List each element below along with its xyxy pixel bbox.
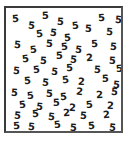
glyph-5[interactable]: 5 [12,14,20,24]
glyph-5[interactable]: 5 [28,122,36,133]
glyph-5[interactable]: 5 [53,120,61,131]
glyph-5[interactable]: 5 [115,64,123,75]
glyph-5[interactable]: 5 [40,56,48,66]
glyph-5[interactable]: 5 [24,76,32,86]
glyph-2[interactable]: 2 [86,53,94,63]
glyph-5[interactable]: 5 [115,15,123,26]
glyph-5[interactable]: 5 [71,21,79,32]
glyph-5[interactable]: 5 [66,63,73,73]
glyph-5[interactable]: 5 [13,66,21,77]
glyph-5[interactable]: 5 [102,74,109,84]
glyph-5[interactable]: 5 [41,78,49,89]
glyph-5[interactable]: 5 [14,40,22,51]
glyph-5[interactable]: 5 [11,88,19,98]
glyph-field: 5555555555555555555555525555555555255555… [6,8,121,131]
search-field-frame: 5555555555555555555555525555555555255555… [4,6,123,133]
glyph-5[interactable]: 5 [85,24,92,34]
glyph-5[interactable]: 5 [110,42,118,52]
glyph-5[interactable]: 5 [42,11,49,21]
glyph-5[interactable]: 5 [29,45,37,56]
visual-search-stimulus: 5555555555555555555555525555555555255555… [0,0,129,145]
glyph-5[interactable]: 5 [108,123,116,133]
glyph-5[interactable]: 5 [106,27,113,37]
glyph-5[interactable]: 5 [19,100,27,111]
glyph-5[interactable]: 5 [21,54,29,65]
glyph-5[interactable]: 5 [70,123,77,133]
glyph-5[interactable]: 5 [13,121,20,131]
glyph-2[interactable]: 2 [63,108,70,118]
glyph-5[interactable]: 5 [46,39,53,49]
glyph-5[interactable]: 5 [53,98,60,108]
glyph-5[interactable]: 5 [80,111,88,121]
glyph-2[interactable]: 2 [96,90,103,100]
glyph-5[interactable]: 5 [57,17,65,27]
glyph-5[interactable]: 5 [27,21,35,32]
glyph-5[interactable]: 5 [60,92,68,102]
glyph-5[interactable]: 5 [98,13,105,23]
glyph-5[interactable]: 5 [33,65,41,76]
glyph-5[interactable]: 5 [88,121,96,131]
glyph-5[interactable]: 5 [50,67,58,78]
glyph-2[interactable]: 2 [75,87,83,98]
glyph-5[interactable]: 5 [26,91,34,102]
glyph-5[interactable]: 5 [85,100,93,111]
glyph-5[interactable]: 5 [61,75,69,86]
glyph-2[interactable]: 2 [103,110,111,121]
glyph-5[interactable]: 5 [35,29,43,40]
glyph-5[interactable]: 5 [94,65,102,75]
glyph-5[interactable]: 5 [56,51,63,61]
glyph-5[interactable]: 5 [49,28,57,39]
glyph-5[interactable]: 5 [111,87,119,98]
glyph-5[interactable]: 5 [32,109,40,119]
glyph-5[interactable]: 5 [91,39,98,49]
